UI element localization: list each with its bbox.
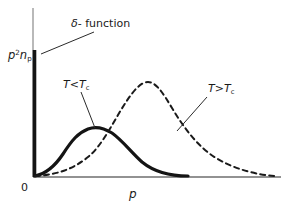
above-tc-operator: > xyxy=(215,82,224,95)
figure-canvas xyxy=(0,0,282,209)
above-tc-prefix: T xyxy=(208,82,215,95)
below-tc-prefix: T xyxy=(63,78,70,91)
delta-function-leader-line xyxy=(41,32,94,54)
origin-label: 0 xyxy=(21,182,28,193)
below-tc-label: T<Tc xyxy=(63,79,89,90)
physics-distribution-figure: δ- function p2np T<Tc T>Tc 0 p xyxy=(0,0,282,209)
delta-symbol: δ xyxy=(71,17,78,30)
curve-above-tc xyxy=(35,82,276,176)
x-axis-label: p xyxy=(129,188,137,200)
y-axis-label: p2np xyxy=(8,50,32,62)
delta-rest: - function xyxy=(78,17,130,30)
below-tc-leader-line xyxy=(81,92,95,128)
below-tc-subscript: c xyxy=(86,84,90,92)
below-tc-base: T xyxy=(79,78,86,91)
above-tc-base: T xyxy=(224,82,231,95)
below-tc-operator: < xyxy=(70,78,79,91)
above-tc-label: T>Tc xyxy=(208,83,234,94)
y-axis-label-subscript: p xyxy=(27,54,32,63)
x-axis-label-text: p xyxy=(129,187,137,201)
curve-below-tc xyxy=(35,128,188,176)
above-tc-subscript: c xyxy=(231,88,235,96)
y-axis-label-exponent: 2 xyxy=(15,48,20,57)
above-tc-leader-line xyxy=(177,97,207,131)
delta-function-label: δ- function xyxy=(71,18,130,29)
